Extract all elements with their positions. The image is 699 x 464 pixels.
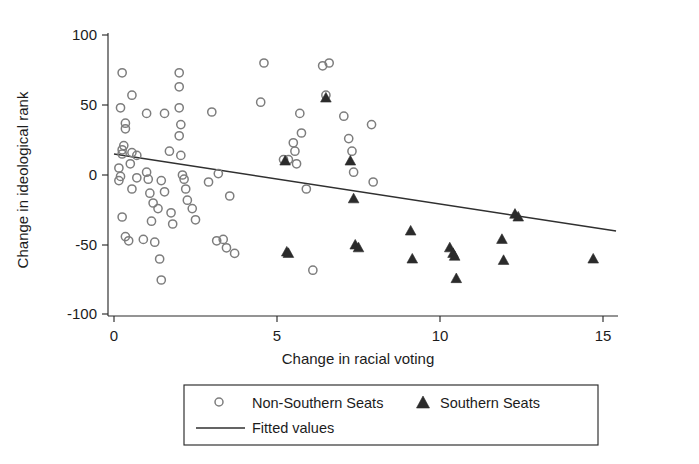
- legend-border: [184, 385, 598, 445]
- data-point-non-southern: [146, 189, 154, 197]
- data-point-non-southern: [169, 220, 177, 228]
- data-point-non-southern: [115, 164, 123, 172]
- data-point-southern: [407, 253, 418, 263]
- data-point-non-southern: [143, 109, 151, 117]
- data-point-non-southern: [157, 177, 165, 185]
- data-point-non-southern: [175, 132, 183, 140]
- chart-canvas: Change in ideological rank 100 50 0 -50 …: [0, 0, 699, 464]
- data-point-southern: [348, 193, 359, 203]
- y-tick-label-0: 0: [89, 166, 97, 183]
- data-point-southern: [588, 253, 599, 263]
- data-point-non-southern: [260, 59, 268, 67]
- legend-circle-icon: [215, 398, 223, 406]
- y-axis-title: Change in ideological rank: [14, 91, 31, 268]
- legend-label-non-southern: Non-Southern Seats: [252, 395, 383, 411]
- x-tick-label-5: 5: [273, 327, 281, 344]
- data-point-non-southern: [369, 178, 377, 186]
- data-point-non-southern: [175, 83, 183, 91]
- x-tick-label-10: 10: [432, 327, 449, 344]
- data-point-non-southern: [165, 147, 173, 155]
- x-tick-label-0: 0: [110, 327, 118, 344]
- y-tick-label-neg100: -100: [67, 305, 97, 322]
- data-point-non-southern: [133, 174, 141, 182]
- x-axis-ticks: 0 5 10 15: [110, 316, 612, 344]
- x-tick-label-15: 15: [595, 327, 612, 344]
- data-point-non-southern: [191, 216, 199, 224]
- data-point-non-southern: [257, 98, 265, 106]
- data-point-southern: [405, 225, 416, 235]
- data-point-non-southern: [222, 244, 230, 252]
- y-tick-label-100: 100: [72, 26, 97, 43]
- data-point-non-southern: [296, 109, 304, 117]
- data-point-non-southern: [231, 249, 239, 257]
- data-point-non-southern: [289, 139, 297, 147]
- data-point-non-southern: [188, 205, 196, 213]
- data-point-non-southern: [208, 108, 216, 116]
- legend-label-southern: Southern Seats: [440, 395, 540, 411]
- data-point-non-southern: [154, 205, 162, 213]
- data-point-non-southern: [340, 112, 348, 120]
- y-tick-label-neg50: -50: [75, 236, 97, 253]
- data-point-non-southern: [128, 185, 136, 193]
- data-point-non-southern: [126, 160, 134, 168]
- data-point-non-southern: [367, 121, 375, 129]
- data-point-non-southern: [309, 266, 317, 274]
- data-point-non-southern: [160, 109, 168, 117]
- data-point-southern: [345, 155, 356, 165]
- non-southern-seats-series: [115, 59, 377, 284]
- data-point-southern: [451, 273, 462, 283]
- data-point-non-southern: [302, 185, 310, 193]
- scatter-plot-figure: Change in ideological rank 100 50 0 -50 …: [0, 0, 699, 464]
- data-point-non-southern: [177, 151, 185, 159]
- fitted-values-line: [114, 154, 616, 231]
- data-point-non-southern: [175, 104, 183, 112]
- fitted-line: [114, 154, 616, 231]
- data-point-non-southern: [175, 69, 183, 77]
- data-point-non-southern: [121, 125, 129, 133]
- data-point-non-southern: [292, 160, 300, 168]
- data-point-non-southern: [345, 135, 353, 143]
- data-point-non-southern: [128, 91, 136, 99]
- x-axis-title: Change in racial voting: [282, 350, 435, 367]
- data-point-non-southern: [118, 69, 126, 77]
- data-point-non-southern: [204, 178, 212, 186]
- data-point-non-southern: [182, 185, 190, 193]
- legend: Non-Southern Seats Southern Seats Fitted…: [184, 385, 598, 445]
- y-tick-label-50: 50: [80, 96, 97, 113]
- data-point-non-southern: [291, 147, 299, 155]
- data-point-non-southern: [160, 188, 168, 196]
- data-point-non-southern: [139, 235, 147, 243]
- data-point-southern: [498, 255, 509, 265]
- data-point-non-southern: [226, 192, 234, 200]
- data-point-non-southern: [348, 147, 356, 155]
- y-axis-ticks: 100 50 0 -50 -100: [67, 26, 108, 322]
- data-point-southern: [497, 234, 508, 244]
- legend-triangle-icon: [417, 396, 430, 408]
- data-point-non-southern: [177, 121, 185, 129]
- data-point-non-southern: [183, 196, 191, 204]
- data-point-non-southern: [147, 217, 155, 225]
- data-point-non-southern: [350, 168, 358, 176]
- legend-label-fitted: Fitted values: [252, 420, 334, 436]
- data-point-non-southern: [116, 104, 124, 112]
- data-point-non-southern: [157, 276, 165, 284]
- data-point-non-southern: [156, 255, 164, 263]
- data-point-non-southern: [151, 238, 159, 246]
- data-point-non-southern: [297, 129, 305, 137]
- data-point-non-southern: [118, 213, 126, 221]
- data-point-non-southern: [167, 209, 175, 217]
